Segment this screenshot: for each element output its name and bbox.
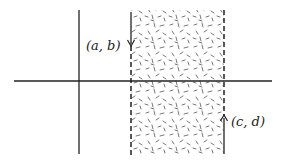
shaded-strip	[131, 10, 224, 154]
point-label-c-d: (c, d)	[231, 114, 265, 129]
strip-diagram: (a, b) (c, d)	[0, 0, 284, 164]
point-label-a-b: (a, b)	[86, 38, 120, 53]
